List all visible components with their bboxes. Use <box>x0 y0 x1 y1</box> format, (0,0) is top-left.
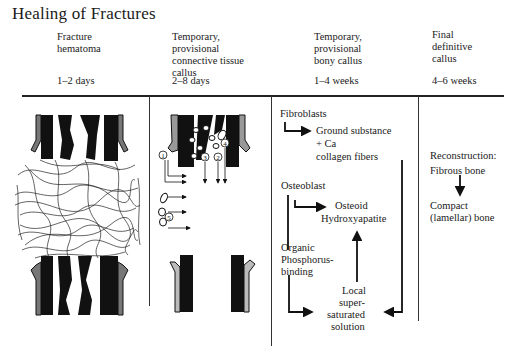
marker-3: 3 <box>203 154 207 162</box>
label-organic: Organic <box>281 242 315 254</box>
marker-2: 2 <box>216 154 220 162</box>
marker-1: 1 <box>161 152 165 160</box>
label-compact: Compact <box>430 200 468 212</box>
label-local: Local <box>342 285 366 297</box>
marker-4: 4 <box>223 140 227 148</box>
label-osteoblast: Osteoblast <box>281 180 325 192</box>
label-ground-substance: Ground substance <box>316 125 392 137</box>
label-binding: binding <box>281 266 313 278</box>
label-fibroblasts: Fibroblasts <box>280 108 327 120</box>
label-hydroxyapatite: Hydroxyapatite <box>321 213 386 225</box>
label-solution: solution <box>331 321 365 333</box>
label-saturated: saturated <box>327 309 365 321</box>
label-phosphorus: Phosphorus- <box>281 254 334 266</box>
label-super: super- <box>339 297 365 309</box>
label-reconstruction: Reconstruction: <box>430 150 497 162</box>
label-collagen-fibers: collagen fibers <box>316 151 378 163</box>
label-lamellar-bone: (lamellar) bone <box>430 212 494 224</box>
label-fibrous-bone: Fibrous bone <box>430 165 485 177</box>
label-osteoid: Osteoid <box>335 200 368 212</box>
fracture-hematoma-illustration <box>15 115 140 315</box>
connective-tissue-callus-illustration: 1 2 3 4 5 <box>159 115 256 312</box>
label-plus-ca: + Ca <box>316 138 336 150</box>
marker-5: 5 <box>167 214 171 222</box>
